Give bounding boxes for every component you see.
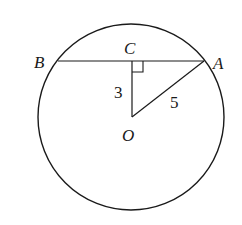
label-A: A: [212, 54, 224, 73]
label-B: B: [34, 53, 45, 72]
label-O: O: [122, 126, 134, 145]
diagram-svg: B C A 3 5 O: [0, 0, 242, 225]
label-length-OC: 3: [114, 83, 123, 102]
right-angle-marker: [132, 61, 143, 72]
label-length-OA: 5: [170, 93, 179, 112]
label-C: C: [124, 39, 136, 58]
geometry-diagram: B C A 3 5 O: [0, 0, 242, 225]
